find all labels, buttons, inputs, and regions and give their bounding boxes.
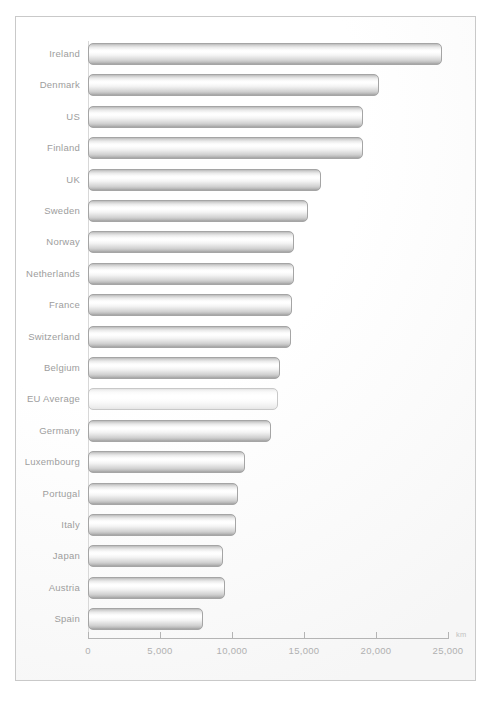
bar-row: EU Average xyxy=(16,386,477,412)
bar xyxy=(88,420,271,442)
category-label: Netherlands xyxy=(16,261,80,287)
bar-row: Norway xyxy=(16,229,477,255)
axis-tick-label: 5,000 xyxy=(125,645,195,656)
category-label: Portugal xyxy=(16,481,80,507)
bar xyxy=(88,608,203,630)
axis-tick xyxy=(88,632,89,639)
category-label: EU Average xyxy=(16,386,80,412)
bar-row: US xyxy=(16,104,477,130)
category-label: Norway xyxy=(16,229,80,255)
axis-tick xyxy=(448,632,449,639)
category-label: Belgium xyxy=(16,355,80,381)
bar xyxy=(88,74,379,96)
category-label: Denmark xyxy=(16,72,80,98)
bar xyxy=(88,577,225,599)
bar xyxy=(88,326,291,348)
bar-row: Netherlands xyxy=(16,261,477,287)
bar-row: Japan xyxy=(16,543,477,569)
bar-row: Luxembourg xyxy=(16,449,477,475)
bar xyxy=(88,106,363,128)
category-label: Spain xyxy=(16,606,80,632)
category-label: Austria xyxy=(16,575,80,601)
category-label: Switzerland xyxy=(16,324,80,350)
bar-row: France xyxy=(16,292,477,318)
bar xyxy=(88,169,321,191)
axis-tick-label: 15,000 xyxy=(269,645,339,656)
chart-figure: 05,00010,00015,00020,00025,000kmIrelandD… xyxy=(15,16,476,681)
bar xyxy=(88,514,236,536)
bar xyxy=(88,231,294,253)
bar-row: Switzerland xyxy=(16,324,477,350)
bar-row: Austria xyxy=(16,575,477,601)
axis-tick-label: 10,000 xyxy=(197,645,267,656)
bar xyxy=(88,294,292,316)
bar xyxy=(88,483,238,505)
category-label: France xyxy=(16,292,80,318)
axis-tick-label: 25,000 xyxy=(413,645,483,656)
category-label: Ireland xyxy=(16,41,80,67)
bar-row: Finland xyxy=(16,135,477,161)
bar-row: Sweden xyxy=(16,198,477,224)
axis-tick xyxy=(376,632,377,639)
bar-row: Italy xyxy=(16,512,477,538)
axis-tick-label: 20,000 xyxy=(341,645,411,656)
bar xyxy=(88,357,280,379)
bar xyxy=(88,545,223,567)
bar xyxy=(88,263,294,285)
axis-tick xyxy=(160,632,161,639)
category-label: Italy xyxy=(16,512,80,538)
category-label: Luxembourg xyxy=(16,449,80,475)
bar xyxy=(88,451,245,473)
bar xyxy=(88,200,308,222)
bar-row: Belgium xyxy=(16,355,477,381)
axis-tick xyxy=(232,632,233,639)
category-label: Japan xyxy=(16,543,80,569)
bar xyxy=(88,137,363,159)
category-axis-line xyxy=(88,638,449,639)
bar-row: Denmark xyxy=(16,72,477,98)
category-label: Finland xyxy=(16,135,80,161)
bar xyxy=(88,43,442,65)
axis-tick xyxy=(304,632,305,639)
bar xyxy=(88,388,278,410)
category-label: US xyxy=(16,104,80,130)
bar-row: Portugal xyxy=(16,481,477,507)
bar-row: Spain xyxy=(16,606,477,632)
category-label: Germany xyxy=(16,418,80,444)
axis-tick-label: 0 xyxy=(53,645,123,656)
category-label: Sweden xyxy=(16,198,80,224)
bar-row: Germany xyxy=(16,418,477,444)
plot-area: 05,00010,00015,00020,00025,000kmIrelandD… xyxy=(16,17,477,682)
category-label: UK xyxy=(16,167,80,193)
bar-row: UK xyxy=(16,167,477,193)
bar-row: Ireland xyxy=(16,41,477,67)
